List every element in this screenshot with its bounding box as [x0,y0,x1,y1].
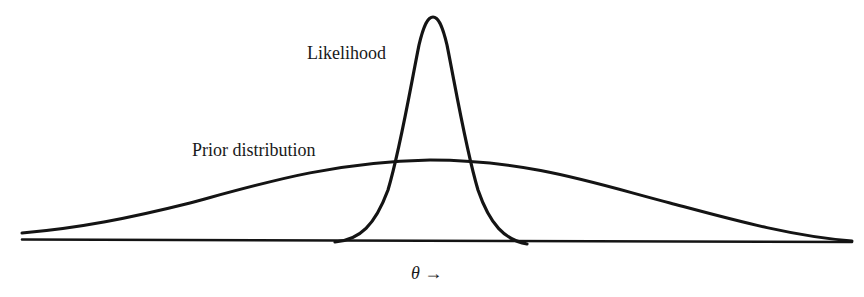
prior-distribution-curve [22,160,852,241]
likelihood-label: Likelihood [307,44,386,62]
curves-canvas [0,0,864,297]
theta-axis-line [22,240,852,243]
prior-likelihood-diagram: Likelihood Prior distribution θ → [0,0,864,297]
prior-distribution-label: Prior distribution [192,141,316,159]
theta-axis-label: θ → [411,264,442,282]
right-arrow-icon: → [424,263,442,283]
theta-symbol: θ [411,263,420,283]
